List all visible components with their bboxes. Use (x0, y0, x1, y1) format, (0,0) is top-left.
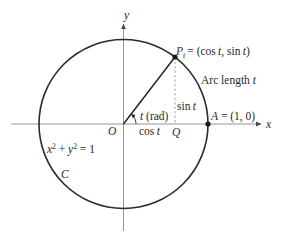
point-p-label: Pt= (cos t, sin t) (175, 45, 250, 60)
point-q-label: Q (172, 126, 181, 138)
point-a-marker (205, 121, 210, 126)
point-p-mid: , sin (221, 45, 242, 58)
point-p-close: ) (246, 45, 250, 58)
sin-var: t (193, 100, 197, 112)
point-p-eq: = (cos (187, 45, 218, 58)
point-a-label: A = (1, 0) (210, 110, 255, 123)
sin-label: sin t (177, 100, 197, 112)
cos-prefix: cos (139, 125, 157, 137)
x-axis-label: x (265, 118, 272, 130)
angle-label: t (rad) (140, 110, 169, 123)
origin-label: O (108, 125, 117, 137)
eq-plus: + (56, 143, 68, 155)
arc-length-label: Arc length t (201, 74, 257, 87)
arc-length-var: t (253, 74, 257, 86)
point-p-subscript: t (183, 51, 186, 60)
arc-length-prefix: Arc length (201, 74, 253, 87)
circle-equation: x2 + y2 = 1 (46, 142, 95, 156)
point-p-name: P (175, 45, 183, 57)
y-axis-label: y (123, 9, 130, 22)
eq-rhs: = 1 (77, 143, 95, 155)
sin-prefix: sin (177, 100, 193, 112)
point-a-coords: = (1, 0) (218, 110, 255, 123)
cos-var: t (157, 125, 161, 137)
curve-name-label: C (61, 168, 69, 180)
angle-arc-arrow (131, 114, 136, 124)
angle-unit: (rad) (143, 110, 168, 123)
unit-circle-diagram: y x Pt= (cos t, sin t) Arc length t sin … (0, 0, 282, 241)
cos-label: cos t (139, 125, 161, 137)
